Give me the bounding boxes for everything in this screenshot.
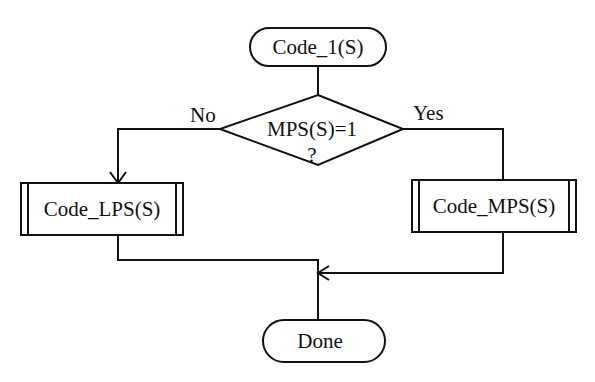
no-branch-label: No	[190, 103, 216, 127]
decision-question-mark: ?	[307, 143, 316, 167]
mps-node: Code_MPS(S)	[412, 180, 576, 232]
start-node: Code_1(S)	[250, 28, 386, 66]
done-label: Done	[297, 329, 343, 353]
connector-mps-to-merge	[318, 232, 503, 273]
connector-lps-to-done	[118, 235, 318, 320]
start-label: Code_1(S)	[273, 35, 364, 59]
lps-node: Code_LPS(S)	[21, 183, 183, 235]
decision-node: MPS(S)=1 ?	[220, 95, 403, 167]
connector-no-branch	[118, 129, 220, 183]
mps-label: Code_MPS(S)	[433, 194, 556, 218]
flowchart-canvas: Code_1(S) MPS(S)=1 ? No Yes Code_LPS(S) …	[0, 0, 595, 382]
connector-yes-branch	[403, 129, 503, 180]
lps-label: Code_LPS(S)	[44, 197, 161, 221]
yes-branch-label: Yes	[413, 101, 444, 125]
decision-condition: MPS(S)=1	[267, 117, 357, 141]
done-node: Done	[263, 320, 385, 362]
